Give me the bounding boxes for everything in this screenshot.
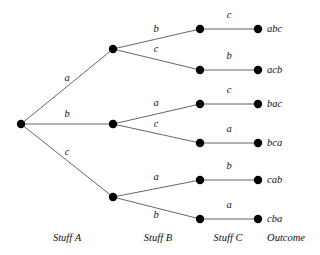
edge-label: a [64, 73, 69, 84]
edge-label: c [65, 147, 70, 158]
tree-node [196, 215, 204, 223]
edge-label: b [226, 51, 231, 62]
tree-node [254, 139, 262, 147]
edge-label: a [226, 200, 231, 211]
tree-node [196, 66, 204, 74]
outcome-label: cba [267, 214, 282, 225]
edge-label: c [154, 44, 159, 55]
tree-node [254, 100, 262, 108]
column-label-outcome: Outcome [267, 233, 305, 244]
edge-label: a [226, 124, 231, 135]
tree-node [17, 120, 25, 128]
column-label-stuff-b: Stuff B [144, 233, 172, 244]
tree-node [109, 45, 117, 53]
edge-label: c [154, 119, 159, 130]
outcome-label: cab [267, 175, 282, 186]
edge-label: c [227, 85, 232, 96]
tree-node [196, 139, 204, 147]
tree-node [254, 66, 262, 74]
tree-edge [113, 180, 200, 197]
outcome-label: bac [267, 99, 282, 110]
tree-edge [21, 124, 113, 197]
tree-diagram-canvas: abcbcacabcbcabaabcacbbacbcacabcbaStuff A… [0, 0, 320, 255]
tree-node [254, 25, 262, 33]
edge-label: b [64, 109, 69, 120]
edge-label: b [153, 210, 158, 221]
edge-label: b [226, 161, 231, 172]
tree-node [109, 193, 117, 201]
outcome-label: abc [267, 24, 282, 35]
tree-node [196, 25, 204, 33]
outcome-label: bca [267, 138, 282, 149]
edge-label: a [153, 98, 158, 109]
column-label-stuff-c: Stuff C [214, 233, 243, 244]
tree-node [196, 100, 204, 108]
tree-node [254, 215, 262, 223]
tree-node [254, 176, 262, 184]
tree-node [109, 120, 117, 128]
outcome-label: acb [267, 65, 282, 76]
edge-label: b [153, 24, 158, 35]
edge-label: a [153, 172, 158, 183]
column-label-stuff-a: Stuff A [53, 233, 81, 244]
tree-node [196, 176, 204, 184]
edge-label: c [227, 10, 232, 21]
